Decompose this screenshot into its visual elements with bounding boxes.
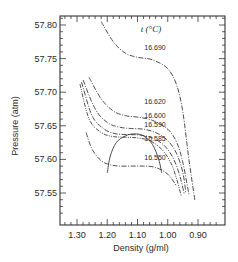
y-tick-label: 57.80 [34,20,57,30]
y-tick-label: 57.60 [34,154,57,164]
y-tick-label: 57.55 [34,188,57,198]
pressure-density-chart: 57.8057.7557.7057.6557.6057.55 1.301.201… [0,0,238,262]
x-tick-label: 1.00 [159,230,177,240]
curve-label: 16.590 [144,121,166,128]
plot-frame [60,16,225,225]
x-tick-label: 1.10 [129,230,147,240]
y-tick-label: 57.75 [34,54,57,64]
curve-label: 16.600 [144,112,166,119]
axis-ticks [60,16,225,225]
y-tick-label: 57.65 [34,121,57,131]
x-tick-label: 1.30 [68,230,86,240]
curve-label: 16.550 [144,154,166,161]
x-axis-label: Density (g/ml) [113,243,169,253]
legend-title: t (°C) [141,24,161,34]
x-tick-labels: 1.301.201.101.000.90 [68,230,207,240]
curve-16-600 [83,80,186,193]
y-tick-labels: 57.8057.7557.7057.6557.6057.55 [34,20,57,198]
x-tick-label: 1.20 [98,230,116,240]
x-tick-label: 0.90 [189,230,207,240]
y-axis-label: Pressure (atm) [10,96,20,156]
y-tick-label: 57.70 [34,87,57,97]
curve-label: 16.585 [144,135,166,142]
curve-16-620 [89,77,189,194]
curve-label: 16.620 [144,98,166,105]
curve-label: 16.690 [144,44,166,51]
isotherm-curves [80,22,195,202]
curve-16-585 [80,84,181,196]
curve-16-590 [82,82,185,194]
